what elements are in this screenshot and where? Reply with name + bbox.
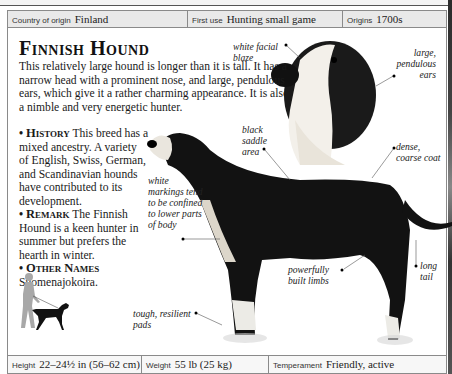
stats-bar: Height 22–24½ in (56–62 cm) Weight 55 lb… xyxy=(7,355,447,374)
remark-heading: Remark xyxy=(26,207,70,221)
breed-title: Finnish Hound xyxy=(19,37,149,60)
history-heading: History xyxy=(26,126,70,140)
callout-saddle: black saddle area xyxy=(242,124,272,157)
breed-sections: • History This breed has a mixed ancestr… xyxy=(19,127,149,289)
person-silhouette xyxy=(21,273,40,328)
temperament-label: Temperament xyxy=(273,361,322,370)
history-section: • History This breed has a mixed ancestr… xyxy=(19,127,149,208)
breed-intro: This relatively large hound is longer th… xyxy=(19,60,289,114)
remark-section: • Remark The Finnish Hound is a keen hun… xyxy=(19,208,149,262)
temperament-value: Friendly, active xyxy=(326,358,394,370)
callout-tail: long tail xyxy=(420,260,444,282)
weight-label: Weight xyxy=(146,361,171,370)
callout-markings: white markings tend to be confined to lo… xyxy=(148,175,206,230)
weight-value: 55 lb (25 kg) xyxy=(175,358,232,370)
temperament-cell: Temperament Friendly, active xyxy=(269,356,446,373)
size-comparison-icon xyxy=(18,272,74,332)
dog-silhouette xyxy=(32,303,69,330)
callout-ears: large, pendulous ears xyxy=(388,47,436,80)
height-cell: Height 22–24½ in (56–62 cm) xyxy=(8,356,142,373)
height-value: 22–24½ in (56–62 cm) xyxy=(39,358,140,370)
callout-facial-blaze: white facial blaze xyxy=(233,41,285,63)
callout-limbs: powerfully built limbs xyxy=(288,264,343,286)
callout-coat: dense, coarse coat xyxy=(396,141,446,163)
callout-pads: tough, resilient pads xyxy=(133,308,198,330)
weight-cell: Weight 55 lb (25 kg) xyxy=(142,356,269,373)
height-label: Height xyxy=(12,361,35,370)
